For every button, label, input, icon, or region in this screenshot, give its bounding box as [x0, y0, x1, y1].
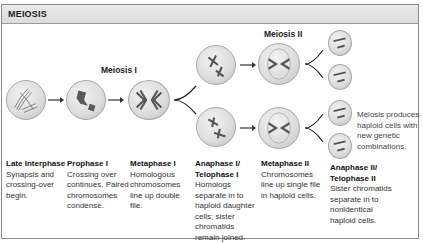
- cell-anaphase-1-bottom: [196, 107, 236, 147]
- col-text: in haploid cells.: [261, 191, 333, 202]
- note-line: haploid cells with: [357, 121, 421, 132]
- col-text: continues. Paired: [67, 180, 133, 191]
- cell-late-interphase: [6, 80, 46, 120]
- chromatid-icon: [329, 101, 351, 125]
- arrow-icon: [108, 97, 124, 103]
- col-text: Homologs: [195, 180, 261, 191]
- col-text: cells; sister: [195, 212, 261, 223]
- col-anaphase-2: Anaphase II/ Telophase II Sister chromat…: [330, 163, 410, 226]
- col-prophase-1: Prophase I Crossing over continues. Pair…: [67, 159, 133, 212]
- col-title: Telophase I: [195, 170, 261, 181]
- haploid-cell-4: [328, 133, 352, 159]
- note-line: Meiosis produces: [357, 110, 421, 121]
- cell-metaphase-2-bottom: [258, 107, 300, 149]
- col-title: Telophase II: [330, 174, 410, 185]
- haploid-cell-1: [328, 30, 352, 56]
- col-text: file.: [130, 201, 192, 212]
- col-late-interphase: Late Interphase Synapsis and crossing-ov…: [6, 159, 68, 201]
- col-title: Late Interphase: [6, 159, 68, 170]
- col-text: line up single file: [261, 180, 333, 191]
- cell-anaphase-1-top: [196, 45, 236, 85]
- cell-metaphase-2-top: [258, 43, 300, 85]
- haploid-cell-2: [328, 64, 352, 90]
- summary-note: Meiosis produces haploid cells with new …: [357, 110, 421, 152]
- col-title: Anaphase II/: [330, 163, 410, 174]
- figure-title: MEIOSIS: [8, 9, 47, 19]
- col-title: Prophase I: [67, 159, 133, 170]
- col-text: begin.: [6, 191, 68, 202]
- note-line: new genetic: [357, 131, 421, 142]
- chromatin-icon: [7, 81, 45, 119]
- cell-prophase-1: [66, 80, 106, 120]
- haploid-cell-3: [328, 100, 352, 126]
- split-arrow-icon: [303, 110, 325, 146]
- col-text: separate in to: [195, 191, 261, 202]
- chromosome-icon: [259, 108, 299, 148]
- col-title: Metaphase II: [261, 159, 333, 170]
- col-text: Crossing over: [67, 170, 133, 181]
- col-title: Metaphase I: [130, 159, 192, 170]
- chromosome-icon: [197, 46, 235, 84]
- header-bar: MEIOSIS: [2, 5, 418, 24]
- chromosome-icon: [259, 44, 299, 84]
- arrow-icon: [240, 62, 256, 68]
- chromatid-icon: [329, 134, 351, 158]
- arrow-icon: [240, 125, 256, 131]
- col-text: haploid cells.: [330, 216, 410, 227]
- chromatid-icon: [329, 65, 351, 89]
- col-text: chromosomes: [67, 191, 133, 202]
- chromatid-icon: [329, 31, 351, 55]
- col-text: Homologous: [130, 170, 192, 181]
- chromosome-pairs-icon: [129, 81, 169, 119]
- col-text: haploid daughter: [195, 201, 261, 212]
- split-arrow-icon: [172, 80, 198, 120]
- col-text: crossing-over: [6, 180, 68, 191]
- col-anaphase-1: Anaphase I/ Telophase I Homologs separat…: [195, 159, 261, 243]
- col-title: Anaphase I/: [195, 159, 261, 170]
- arrow-icon: [48, 97, 64, 103]
- split-arrow-icon: [303, 46, 325, 82]
- meiosis-1-label: Meiosis I: [101, 65, 137, 75]
- col-text: nonidentical: [330, 205, 410, 216]
- meiosis-2-label: Meiosis II: [264, 29, 302, 39]
- col-metaphase-2: Metaphase II Chromosomes line up single …: [261, 159, 333, 201]
- col-text: chromatids: [195, 222, 261, 233]
- col-text: Synapsis and: [6, 170, 68, 181]
- col-text: Chromosomes: [261, 170, 333, 181]
- chromosome-icon: [197, 108, 235, 146]
- col-text: remain joined.: [195, 233, 261, 243]
- col-text: chromosomes: [130, 180, 192, 191]
- note-line: combinations.: [357, 142, 421, 153]
- col-text: Sister chromatids: [330, 184, 410, 195]
- cell-metaphase-1: [128, 80, 170, 120]
- col-text: condense.: [67, 201, 133, 212]
- col-text: line up double: [130, 191, 192, 202]
- col-text: separate in to: [330, 195, 410, 206]
- chromosome-icon: [67, 81, 105, 119]
- col-metaphase-1: Metaphase I Homologous chromosomes line …: [130, 159, 192, 212]
